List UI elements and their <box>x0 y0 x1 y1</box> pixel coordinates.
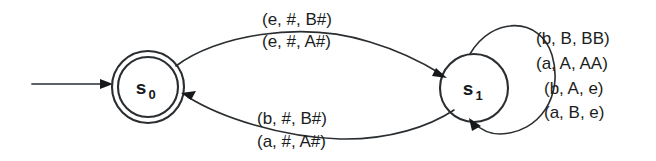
upper-edge-label-line-2: (e, #, A#) <box>262 32 331 51</box>
self-loop-labels: (b, B, BB) (a, A, AA) (b, A, e) (a, B, e… <box>536 29 610 122</box>
transition-s1-self-loop-arrowhead <box>469 118 481 131</box>
self-loop-label-line-2: (a, A, AA) <box>536 54 608 73</box>
state-s0-label: s <box>136 77 147 98</box>
lower-edge-label-line-1: (b, #, B#) <box>257 109 327 128</box>
lower-edge-labels: (b, #, B#) (a, #, A#) <box>257 109 327 151</box>
self-loop-label-line-3: (b, A, e) <box>544 79 604 98</box>
self-loop-label-line-1: (b, B, BB) <box>536 29 610 48</box>
upper-edge-labels: (e, #, B#) (e, #, A#) <box>262 10 332 51</box>
start-arrow <box>32 79 113 89</box>
state-s0-subscript: 0 <box>148 87 155 102</box>
upper-edge-label-line-1: (e, #, B#) <box>262 10 332 29</box>
self-loop-label-line-4: (a, B, e) <box>544 103 604 122</box>
diagram-canvas: s 0 s 1 (e, #, B#) (e, #, A#) <box>0 0 656 161</box>
state-s0[interactable]: s 0 <box>112 51 184 123</box>
pda-state-diagram: s 0 s 1 (e, #, B#) (e, #, A#) <box>0 0 656 161</box>
state-s1-label: s <box>463 78 474 99</box>
lower-edge-label-line-2: (a, #, A#) <box>257 132 326 151</box>
state-s1-subscript: 1 <box>475 88 482 103</box>
